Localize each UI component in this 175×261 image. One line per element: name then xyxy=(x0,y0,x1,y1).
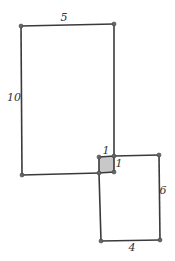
label-overlap-right: 1 xyxy=(116,157,123,170)
small-rect-right-edge xyxy=(159,155,160,240)
vertex-overlap-top-left xyxy=(97,155,101,159)
diagram-canvas: 5 10 1 1 6 4 xyxy=(0,0,175,261)
vertices xyxy=(19,22,162,243)
label-small-width: 4 xyxy=(128,241,136,254)
overlap-square-shape xyxy=(99,156,114,173)
small-rect-top-edge xyxy=(114,155,159,156)
label-large-width: 5 xyxy=(61,11,68,24)
large-rectangle xyxy=(21,24,114,175)
vertex-small-top-right xyxy=(157,153,161,157)
vertex-small-bottom-right xyxy=(158,238,162,242)
vertex-small-bottom-left xyxy=(99,239,103,243)
overlap-square xyxy=(99,156,114,173)
large-rect-left-edge xyxy=(21,26,22,175)
large-rect-top-edge xyxy=(21,24,114,26)
label-small-height: 6 xyxy=(160,184,167,197)
small-rect-left-edge xyxy=(99,173,101,241)
large-rect-bottom-edge xyxy=(22,173,99,175)
vertex-large-top-left xyxy=(19,24,23,28)
label-large-height: 10 xyxy=(7,91,21,104)
vertex-overlap-bottom-right xyxy=(112,170,116,174)
label-overlap-top: 1 xyxy=(103,144,110,157)
labels: 5 10 1 1 6 4 xyxy=(7,11,167,254)
vertex-overlap-bottom-left xyxy=(97,171,101,175)
vertex-large-top-right xyxy=(112,22,116,26)
vertex-large-bottom-left xyxy=(20,173,24,177)
